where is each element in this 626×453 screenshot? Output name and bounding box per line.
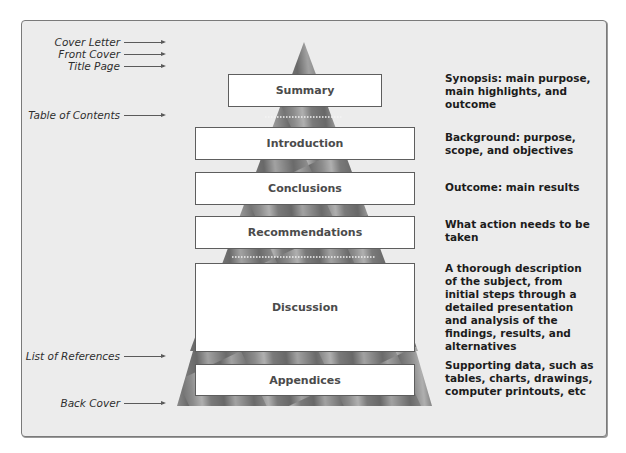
label-table-of-contents: Table of Contents bbox=[10, 109, 120, 121]
label-title-page: Title Page bbox=[10, 60, 120, 72]
label-cover-letter: Cover Letter bbox=[10, 36, 120, 48]
section-box-appendices: Appendices bbox=[195, 364, 415, 396]
section-label: Introduction bbox=[267, 137, 344, 150]
desc-recommendations: What action needs to be taken bbox=[445, 218, 595, 244]
section-label: Summary bbox=[276, 84, 335, 97]
desc-introduction: Background: purpose, scope, and objectiv… bbox=[445, 131, 595, 157]
label-front-cover: Front Cover bbox=[10, 48, 120, 60]
desc-discussion: A thorough description of the subject, f… bbox=[445, 262, 595, 353]
arrow-right-icon bbox=[124, 66, 164, 67]
arrow-right-icon bbox=[124, 54, 164, 55]
label-list-of-references: List of References bbox=[10, 350, 120, 362]
section-box-discussion: Discussion bbox=[195, 263, 415, 352]
desc-conclusions: Outcome: main results bbox=[445, 181, 595, 194]
section-label: Discussion bbox=[272, 301, 338, 314]
desc-summary: Synopsis: main purpose, main highlights,… bbox=[445, 72, 595, 111]
desc-appendices: Supporting data, such as tables, charts,… bbox=[445, 359, 595, 398]
section-box-conclusions: Conclusions bbox=[195, 172, 415, 205]
section-label: Conclusions bbox=[268, 182, 342, 195]
arrow-right-icon bbox=[124, 356, 164, 357]
arrow-right-icon bbox=[124, 403, 164, 404]
section-label: Appendices bbox=[269, 374, 341, 387]
section-box-summary: Summary bbox=[228, 74, 382, 107]
section-box-recommendations: Recommendations bbox=[195, 216, 415, 249]
label-back-cover: Back Cover bbox=[10, 397, 120, 409]
section-box-introduction: Introduction bbox=[195, 127, 415, 160]
arrow-right-icon bbox=[124, 115, 164, 116]
section-label: Recommendations bbox=[248, 226, 363, 239]
arrow-right-icon bbox=[124, 42, 164, 43]
